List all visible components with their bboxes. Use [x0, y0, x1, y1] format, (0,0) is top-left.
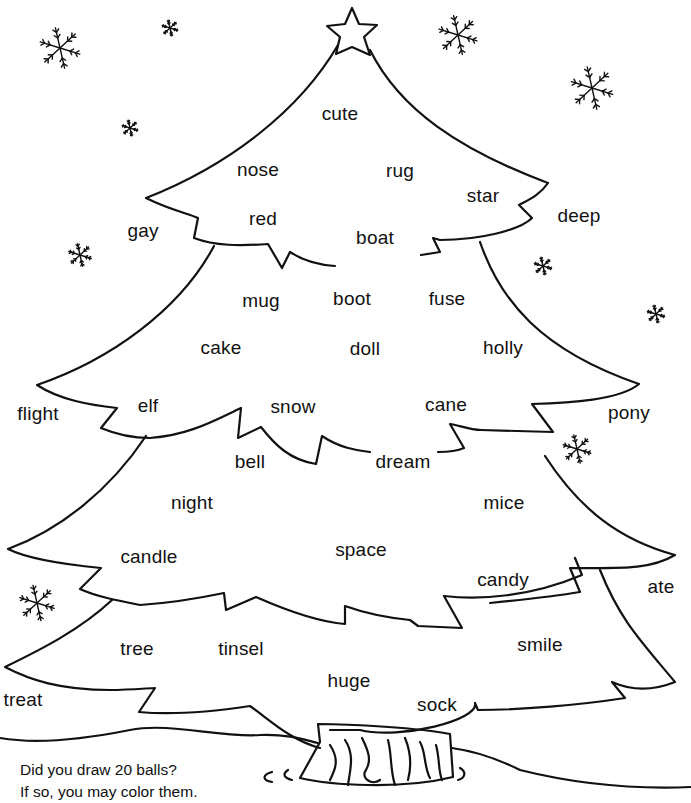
- ground-line: [0, 728, 318, 743]
- tree-word: huge: [327, 671, 370, 690]
- tree-word: sock: [417, 695, 457, 714]
- tree-word: candy: [477, 570, 529, 589]
- snowflake-icon: [17, 583, 57, 627]
- tree-word: mice: [484, 493, 525, 512]
- tree-word: fuse: [429, 289, 466, 308]
- snowflake-icon: [436, 13, 480, 61]
- tree-word: boat: [356, 228, 394, 247]
- outside-word: gay: [127, 221, 158, 240]
- snowflake-icon: [161, 19, 179, 41]
- snowflake-icon: [646, 304, 666, 328]
- star-icon: [327, 8, 377, 55]
- tree-word: smile: [517, 635, 562, 654]
- outside-word: treat: [3, 690, 42, 709]
- snowflake-icon: [561, 433, 593, 469]
- tree-word: space: [335, 540, 387, 559]
- tree-word: candle: [120, 547, 177, 566]
- tree-word: nose: [237, 160, 279, 179]
- tree-word: elf: [138, 396, 159, 415]
- tree-word: dream: [376, 452, 431, 471]
- tree-tier-1: [146, 45, 338, 268]
- instruction-line-1: Did you draw 20 balls?: [20, 762, 177, 778]
- outside-word: flight: [17, 404, 58, 423]
- tree-word: boot: [333, 289, 371, 308]
- tree-word: cane: [425, 395, 467, 414]
- tree-word: rug: [386, 161, 414, 180]
- tree-word: star: [467, 186, 499, 205]
- tree-word: night: [171, 493, 213, 512]
- tree-word: tinsel: [218, 639, 264, 658]
- snowflake-icon: [37, 25, 83, 75]
- tree-word: cute: [322, 104, 359, 123]
- tree-word: tree: [120, 639, 154, 658]
- snowflake-icon: [121, 119, 139, 141]
- snowflake-icon: [533, 256, 553, 280]
- tree-tier-3: [8, 436, 582, 628]
- outside-word: deep: [557, 206, 600, 225]
- tree-word: doll: [350, 339, 380, 358]
- tree-word: cake: [201, 338, 242, 357]
- tree-word: bell: [235, 452, 265, 471]
- tree-word: mug: [242, 291, 280, 310]
- tree-word: snow: [270, 397, 315, 416]
- outside-word: pony: [608, 403, 650, 422]
- instruction-line-2: If so, you may color them.: [20, 784, 197, 800]
- snowflake-icon: [568, 64, 616, 116]
- snowflake-icon: [67, 242, 93, 272]
- outside-word: ate: [647, 577, 674, 596]
- tree-word: holly: [483, 338, 523, 357]
- tree-word: red: [249, 209, 277, 228]
